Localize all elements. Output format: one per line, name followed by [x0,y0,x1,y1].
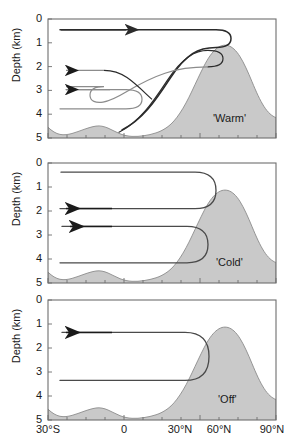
panel-cold: 'Cold' 0 1 2 3 4 5 Depth (km) [0,145,294,295]
ytick-warm-0: 0 [28,12,42,24]
panel-cold-yticks [48,163,52,283]
panel-off: 'Off' 0 1 2 3 4 5 Depth (km) 30°S 0 30°N… [0,282,294,448]
xtick-90N: 90°N [250,423,294,435]
ytick-warm-1: 1 [28,36,42,48]
ytick-off-0: 0 [28,293,42,305]
ytick-off-1: 1 [28,317,42,329]
xtick-30N: 30°N [158,423,202,435]
xtick-0: 0 [105,423,143,435]
ytick-off-2: 2 [28,341,42,353]
ytick-cold-3: 3 [28,228,42,240]
ytick-cold-4: 4 [28,252,42,264]
xtick-30S: 30°S [26,423,70,435]
seafloor-off [48,327,276,422]
ytick-cold-2: 2 [28,204,42,216]
panel-off-yticks [48,300,52,420]
panel-cold-svg: 'Cold' [0,145,294,295]
seafloor-cold [48,190,276,285]
ytick-warm-3: 3 [28,83,42,95]
ytick-off-3: 3 [28,365,42,377]
xtick-60N: 60°N [197,423,241,435]
seafloor-warm [48,45,276,140]
panel-label-cold: 'Cold' [216,256,243,268]
panel-warm-svg: 'Warm' [0,0,294,150]
thermohaline-circulation-figure: 'Warm' 0 1 2 3 4 5 Depth (km) [0,0,294,448]
ytick-warm-5: 5 [28,131,42,143]
panel-label-off: 'Off' [218,393,237,405]
ytick-warm-2: 2 [28,60,42,72]
flow-cold-upper-cell [60,172,216,208]
panel-label-warm: 'Warm' [213,112,246,124]
ytick-off-4: 4 [28,389,42,401]
ytick-cold-1: 1 [28,180,42,192]
flow-off-single-cell [60,332,209,380]
panel-warm: 'Warm' 0 1 2 3 4 5 Depth (km) [0,0,294,150]
panel-warm-yticks [48,19,52,138]
flow-warm-abyssal-cell [60,90,142,109]
ytick-warm-4: 4 [28,107,42,119]
ylabel-cold: Depth (km) [10,172,22,226]
ylabel-off: Depth (km) [10,309,22,363]
ylabel-warm: Depth (km) [10,28,22,82]
ytick-cold-0: 0 [28,156,42,168]
